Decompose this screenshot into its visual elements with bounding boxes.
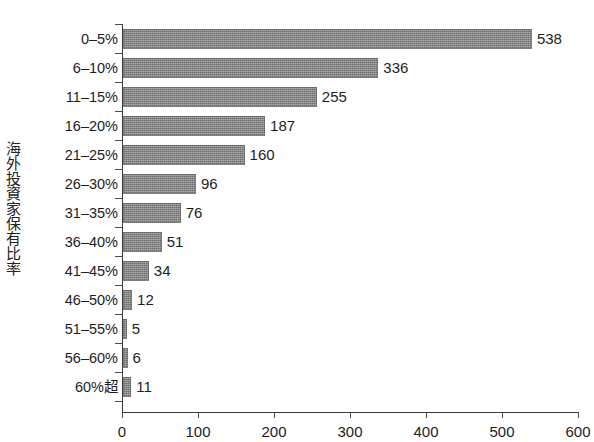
bar-value-label: 255 — [317, 87, 347, 107]
bar — [123, 116, 265, 136]
bar — [123, 58, 378, 78]
category-label: 60%超 — [24, 377, 118, 397]
x-axis-tick — [502, 412, 503, 418]
bar — [123, 203, 181, 223]
x-axis-tick-label: 400 — [386, 422, 466, 442]
category-tick — [115, 372, 122, 373]
x-axis-tick — [198, 412, 199, 418]
chart-title — [0, 0, 594, 9]
category-label: 6–10% — [24, 58, 118, 78]
bar — [123, 377, 131, 397]
bar — [123, 232, 162, 252]
bar-value-label: 12 — [132, 290, 154, 310]
x-axis-tick-label: 500 — [462, 422, 542, 442]
category-label: 36–40% — [24, 232, 118, 252]
category-label: 11–15% — [24, 87, 118, 107]
bar-value-label: 187 — [265, 116, 295, 136]
category-tick — [115, 24, 122, 25]
bar-chart-figure: 海外投資家保有比率 0–5%6–10%11–15%16–20%21–25%26–… — [0, 0, 594, 442]
category-tick — [115, 111, 122, 112]
bar — [123, 261, 149, 281]
category-tick — [115, 285, 122, 286]
bar — [123, 29, 532, 49]
bar — [123, 87, 317, 107]
x-axis-tick — [350, 412, 351, 418]
category-label: 26–30% — [24, 174, 118, 194]
bar-value-label: 51 — [162, 232, 184, 252]
category-label: 41–45% — [24, 261, 118, 281]
x-axis-tick-label: 0 — [82, 422, 162, 442]
category-label: 31–35% — [24, 203, 118, 223]
category-label: 51–55% — [24, 319, 118, 339]
bar-value-label: 538 — [532, 29, 562, 49]
bar-value-label: 34 — [149, 261, 171, 281]
category-label: 21–25% — [24, 145, 118, 165]
category-tick — [115, 401, 122, 402]
bar-value-label: 160 — [245, 145, 275, 165]
category-label: 0–5% — [24, 29, 118, 49]
x-axis-tick — [122, 412, 123, 418]
plot-area: 53833625518716096765134125611 0100200300… — [122, 24, 578, 412]
category-tick — [115, 227, 122, 228]
bar-value-label: 5 — [127, 319, 140, 339]
bar — [123, 145, 245, 165]
bar — [123, 174, 196, 194]
x-axis-tick-label: 200 — [234, 422, 314, 442]
bar-value-label: 6 — [128, 348, 141, 368]
category-tick — [115, 53, 122, 54]
category-tick — [115, 343, 122, 344]
category-label: 16–20% — [24, 116, 118, 136]
category-tick — [115, 314, 122, 315]
category-label: 46–50% — [24, 290, 118, 310]
bar — [123, 290, 132, 310]
y-axis-title: 海外投資家保有比率 — [1, 141, 23, 325]
category-tick — [115, 256, 122, 257]
bar-value-label: 76 — [181, 203, 203, 223]
bar-value-label: 336 — [378, 58, 408, 78]
category-tick — [115, 198, 122, 199]
x-axis-tick — [578, 412, 579, 418]
category-label: 56–60% — [24, 348, 118, 368]
bar-value-label: 96 — [196, 174, 218, 194]
category-tick — [115, 140, 122, 141]
category-tick — [115, 169, 122, 170]
x-axis-tick-label: 600 — [538, 422, 594, 442]
x-axis-tick — [274, 412, 275, 418]
x-axis-tick-label: 300 — [310, 422, 390, 442]
x-axis-tick-label: 100 — [158, 422, 238, 442]
category-tick — [115, 82, 122, 83]
category-axis-labels: 0–5%6–10%11–15%16–20%21–25%26–30%31–35%3… — [24, 24, 118, 412]
bar-value-label: 11 — [131, 377, 152, 397]
x-axis-tick — [426, 412, 427, 418]
